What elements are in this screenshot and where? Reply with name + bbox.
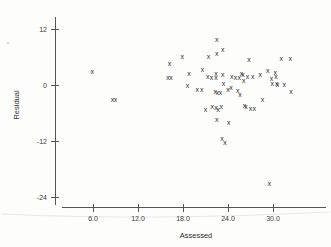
- scatter-plot-canvas: 120-12-246.012.018.024.030.0 xxxxxxxxxxx…: [0, 0, 331, 247]
- data-point-marker: x: [266, 67, 270, 74]
- data-point-marker: x: [215, 116, 219, 123]
- data-point-marker: x: [276, 81, 280, 88]
- data-point-marker: x: [114, 96, 118, 103]
- data-point-marker: x: [221, 46, 225, 53]
- data-point-marker: x: [289, 55, 293, 62]
- data-point-marker: x: [219, 89, 223, 96]
- y-axis-label: Residual: [12, 90, 21, 120]
- data-point-marker: x: [247, 56, 251, 63]
- data-point-marker: x: [289, 88, 293, 95]
- y-tick-label: -12: [37, 138, 47, 145]
- x-axis-label: Assessed: [180, 231, 213, 240]
- data-point-marker: x: [261, 96, 265, 103]
- data-point-marker: x: [186, 82, 190, 89]
- y-tick-label: -24: [37, 194, 47, 201]
- data-point-marker: x: [229, 84, 233, 91]
- x-tick-label: 24.0: [221, 215, 235, 222]
- data-point-marker: x: [215, 36, 219, 43]
- y-tick-label: 0: [43, 82, 47, 89]
- data-point-marker: x: [251, 73, 255, 80]
- data-point-marker: x: [238, 91, 242, 98]
- data-point-marker: x: [215, 50, 219, 57]
- data-point-marker: x: [204, 106, 208, 113]
- data-point-marker: x: [253, 105, 257, 112]
- data-point-marker: x: [200, 86, 204, 93]
- data-point-marker: x: [271, 80, 275, 87]
- y-tick-label: 12: [39, 26, 47, 33]
- data-point-marker: x: [196, 86, 200, 93]
- data-point-marker: x: [283, 81, 287, 88]
- data-point-marker: x: [221, 71, 225, 78]
- scan-artifacts: [2, 42, 330, 217]
- residual-plot-figure: 120-12-246.012.018.024.030.0 xxxxxxxxxxx…: [0, 0, 331, 247]
- data-point-marker: x: [220, 103, 224, 110]
- data-point-marker: x: [259, 71, 263, 78]
- data-point-marker: x: [91, 68, 95, 75]
- data-point-marker: x: [223, 139, 227, 146]
- data-point-marker: x: [187, 70, 191, 77]
- data-point-marker: x: [227, 119, 231, 126]
- data-point-marker: x: [274, 73, 278, 80]
- data-point-marker: x: [169, 74, 173, 81]
- axes: 120-12-246.012.018.024.030.0: [37, 17, 326, 222]
- data-point-marker: x: [168, 60, 172, 67]
- data-points: xxxxxxxxxxxxxxxxxxxxxxxxxxxxxxxxxxxxxxxx…: [91, 36, 294, 186]
- data-point-marker: x: [246, 73, 250, 80]
- x-tick-label: 6.0: [88, 215, 98, 222]
- data-point-marker: x: [217, 106, 221, 113]
- data-point-marker: x: [222, 80, 226, 87]
- data-point-marker: x: [210, 74, 214, 81]
- data-point-marker: x: [268, 180, 272, 187]
- x-tick-label: 18.0: [176, 215, 190, 222]
- data-point-marker: x: [280, 55, 284, 62]
- x-tick-label: 12.0: [131, 215, 145, 222]
- data-point-marker: x: [207, 53, 211, 60]
- data-point-marker: x: [244, 103, 248, 110]
- data-point-marker: x: [201, 66, 205, 73]
- x-tick-label: 30.0: [266, 215, 280, 222]
- data-point-marker: x: [181, 53, 185, 60]
- data-point-marker: x: [214, 74, 218, 81]
